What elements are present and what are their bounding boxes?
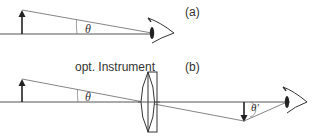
eye-icon-a (148, 18, 174, 43)
angle-arc-b (77, 89, 78, 102)
theta-prime-label: θ' (251, 102, 259, 113)
instrument-label: opt. Instrument (75, 61, 155, 73)
optics-diagram (0, 0, 314, 140)
panel-b (0, 72, 307, 132)
panel-a-label: (a) (185, 6, 200, 18)
theta-label-b: θ (85, 91, 91, 103)
angle-arc-a (76, 20, 77, 34)
theta-label-a: θ (85, 23, 91, 35)
object-arrow-a-head (19, 10, 26, 17)
ray-b (22, 79, 244, 121)
object-arrow-b-head (19, 79, 26, 86)
eye-icon-b (283, 87, 307, 113)
panel-b-label: (b) (185, 61, 200, 73)
